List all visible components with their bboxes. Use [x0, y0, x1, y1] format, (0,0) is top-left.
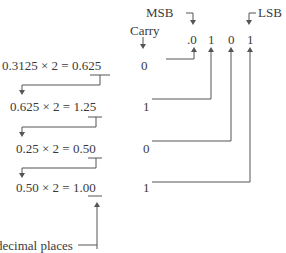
- msb-label: MSB: [146, 6, 173, 20]
- footnote-label: decimal places: [0, 239, 73, 253]
- result-bit: 1: [247, 33, 254, 47]
- carry-value: 0: [143, 142, 150, 156]
- carry-label: Carry: [130, 24, 160, 38]
- step-equation: 0.25 × 2 = 0.50: [16, 142, 96, 156]
- step-equation: 0.3125 × 2 = 0.625: [2, 59, 101, 73]
- result-bit: 1: [208, 33, 215, 47]
- step-equation: 0.625 × 2 = 1.25: [10, 100, 96, 114]
- carry-value: 1: [143, 181, 150, 195]
- carry-value: 0: [141, 59, 148, 73]
- step-equation: 0.50 × 2 = 1.00: [16, 181, 96, 195]
- result-bit: 0: [228, 33, 235, 47]
- lsb-label: LSB: [258, 6, 282, 20]
- result-bit: .0: [187, 33, 197, 47]
- carry-value: 1: [143, 100, 150, 114]
